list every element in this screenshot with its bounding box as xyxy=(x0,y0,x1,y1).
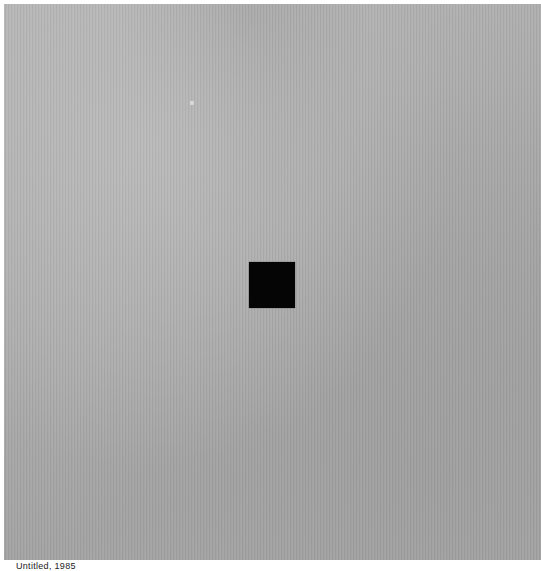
surface-blemish xyxy=(190,101,194,105)
black-square xyxy=(249,262,295,308)
artwork-caption: Untitled, 1985 xyxy=(16,561,76,571)
